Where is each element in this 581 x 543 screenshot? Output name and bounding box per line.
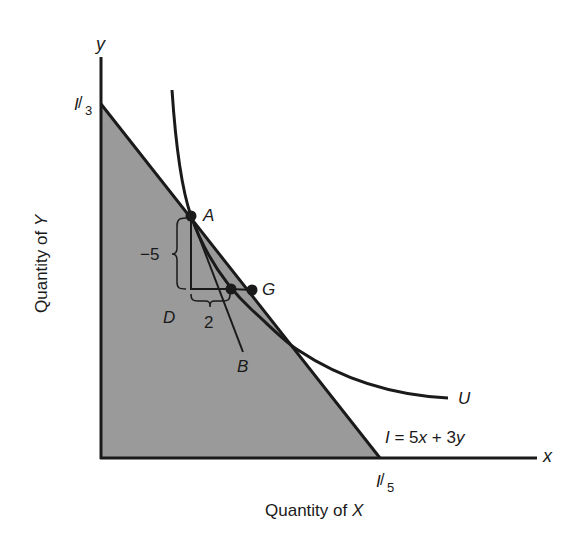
y-intercept-label: I / 3: [74, 94, 92, 118]
svg-text:/: /: [380, 471, 385, 488]
curve-u-label: U: [458, 389, 471, 408]
diagram-canvas: y x I / 3 I / 5 I = 5x + 3y A B G D U −5…: [0, 0, 581, 543]
point-g: [247, 285, 258, 296]
point-b-label: B: [237, 357, 248, 376]
vertical-change-label: −5: [140, 245, 159, 264]
svg-text:/: /: [78, 94, 83, 111]
y-axis-symbol: y: [94, 34, 106, 54]
point-b: [226, 284, 237, 295]
point-a: [186, 211, 197, 222]
point-g-label: G: [262, 280, 275, 299]
svg-text:3: 3: [85, 103, 92, 118]
horizontal-change-label: 2: [204, 313, 213, 332]
region-d-label: D: [163, 308, 175, 327]
x-axis-title: Quantity of X: [265, 501, 364, 520]
y-axis-title: Quantity of Y: [32, 213, 51, 313]
point-a-label: A: [202, 206, 214, 225]
budget-equation: I = 5x + 3y: [385, 428, 466, 447]
x-axis-symbol: x: [542, 446, 553, 466]
svg-text:5: 5: [387, 480, 394, 495]
x-intercept-label: I / 5: [376, 471, 394, 495]
